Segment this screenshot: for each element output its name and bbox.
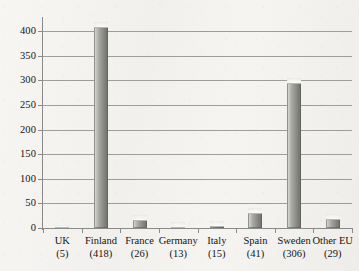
category-name: France [125, 234, 154, 247]
y-axis-tick [38, 130, 43, 131]
y-axis-tick [38, 154, 43, 155]
category-name: Other EU [312, 234, 353, 247]
bar [55, 225, 69, 228]
category-value: (306) [277, 247, 310, 260]
category-name: Finland [85, 234, 117, 247]
y-axis-tick-label: 400 [6, 26, 36, 37]
x-axis-category-label: Italy(15) [207, 234, 226, 260]
x-axis-tick [352, 229, 353, 233]
category-name: Sweden [277, 234, 310, 247]
category-name: UK [55, 234, 70, 247]
bar [326, 214, 340, 228]
y-axis-tick [38, 80, 43, 81]
category-value: (41) [243, 247, 267, 260]
y-axis-tick-label: 0 [6, 223, 36, 234]
category-name: Spain [243, 234, 267, 247]
category-value: (29) [312, 247, 353, 260]
x-axis-tick [43, 229, 44, 233]
y-axis-tick [38, 179, 43, 180]
bar-chart-figure: 050100150200250300350400 UK(5)Finland(41… [0, 0, 359, 271]
x-axis-tick [120, 229, 121, 233]
category-value: (13) [159, 247, 198, 260]
y-axis-tick [38, 31, 43, 32]
bar [133, 215, 147, 228]
bar-cap-highlight [55, 225, 69, 228]
bar-cap-highlight [248, 208, 262, 214]
y-axis-tick-labels: 050100150200250300350400 [0, 0, 36, 271]
bar-cap-highlight [133, 215, 147, 221]
bars-group [43, 19, 352, 228]
bar-cap-highlight [171, 222, 185, 228]
x-axis-tick [236, 229, 237, 233]
bar [248, 208, 262, 228]
y-axis-tick [38, 203, 43, 204]
x-axis-category-label: UK(5) [55, 234, 70, 260]
x-axis-category-label: Spain(41) [243, 234, 267, 260]
y-axis-tick-label: 150 [6, 149, 36, 160]
y-axis-tick-label: 350 [6, 51, 36, 62]
x-axis-tick [313, 229, 314, 233]
bar-cap-highlight [94, 22, 108, 28]
y-axis-tick [38, 56, 43, 57]
y-axis-tick [38, 105, 43, 106]
y-axis-tick-label: 300 [6, 75, 36, 86]
category-name: Italy [207, 234, 226, 247]
bar-cap-highlight [210, 221, 224, 227]
category-value: (5) [55, 247, 70, 260]
bar-cap-highlight [287, 78, 301, 84]
x-axis-tick [82, 229, 83, 233]
x-axis-tick [275, 229, 276, 233]
bar [210, 221, 224, 228]
category-value: (418) [85, 247, 117, 260]
bar [287, 78, 301, 228]
y-axis-tick-label: 50 [6, 198, 36, 209]
bar [94, 22, 108, 228]
x-axis-tick [159, 229, 160, 233]
figure-caption [22, 263, 322, 271]
bar-cap-highlight [326, 214, 340, 220]
x-axis-category-label: Other EU(29) [312, 234, 353, 260]
category-value: (26) [125, 247, 154, 260]
x-axis-category-label: Germany(13) [159, 234, 198, 260]
y-axis-tick-label: 200 [6, 124, 36, 135]
bar [171, 222, 185, 228]
category-name: Germany [159, 234, 198, 247]
x-axis-tick [198, 229, 199, 233]
x-axis-category-label: Finland(418) [85, 234, 117, 260]
y-axis-tick-label: 250 [6, 100, 36, 111]
x-axis-category-label: Sweden(306) [277, 234, 310, 260]
y-axis-tick-label: 100 [6, 174, 36, 185]
category-value: (15) [207, 247, 226, 260]
x-axis-category-label: France(26) [125, 234, 154, 260]
